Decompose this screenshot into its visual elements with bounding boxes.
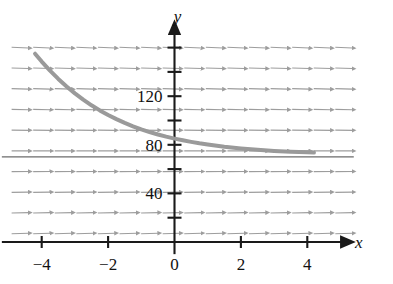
x-tick-label: −4	[33, 255, 52, 274]
axes-group	[2, 33, 342, 254]
slope-field-arrow	[314, 47, 331, 48]
slope-field-arrow	[335, 47, 352, 48]
slope-field-arrow	[292, 68, 309, 69]
slope-field-arrow	[98, 68, 115, 69]
slope-field-arrow	[163, 233, 180, 234]
x-tick-label: 4	[303, 255, 312, 274]
slope-field-arrow	[12, 68, 29, 69]
slope-field-arrow	[249, 233, 266, 234]
y-tick-label: 80	[146, 136, 163, 155]
slope-field-arrow	[206, 233, 223, 234]
slope-field-arrow	[227, 233, 244, 234]
y-tick-label: 40	[146, 184, 163, 203]
slope-field-arrow	[271, 47, 288, 48]
slope-field-arrow	[271, 233, 288, 234]
slope-field-arrow	[335, 233, 352, 234]
slope-field-arrow	[314, 68, 331, 69]
x-tick-label: −2	[99, 255, 117, 274]
slope-field-arrow	[206, 47, 223, 48]
slope-field-arrow	[76, 233, 93, 234]
slope-field-arrow	[249, 47, 266, 48]
slope-field-arrow	[12, 47, 29, 48]
slope-field-arrow	[98, 47, 115, 48]
slope-field-arrow	[55, 47, 72, 48]
slope-field-arrow	[12, 233, 29, 234]
slope-field-arrow	[141, 47, 158, 48]
slope-field-arrow	[55, 233, 72, 234]
y-tick-label: 120	[137, 87, 163, 106]
slope-field-arrow	[335, 68, 352, 69]
tick-labels: −4−20244080120	[33, 87, 312, 274]
slope-field-arrow	[33, 233, 50, 234]
slope-field-arrow	[271, 68, 288, 69]
slope-field-arrow	[292, 47, 309, 48]
slope-field-arrow	[141, 233, 158, 234]
x-axis-label: x	[354, 233, 363, 252]
slope-field-arrow	[120, 47, 137, 48]
x-tick-label: 2	[237, 255, 246, 274]
slope-field-arrow	[120, 68, 137, 69]
slope-field-arrow	[141, 68, 158, 69]
slope-field-arrow	[120, 233, 137, 234]
slope-field-arrow	[292, 233, 309, 234]
slope-field-arrow	[98, 233, 115, 234]
slope-field-arrow	[184, 47, 201, 48]
slope-field-arrow	[163, 68, 180, 69]
slope-field-arrow	[76, 68, 93, 69]
slope-field-arrow	[249, 68, 266, 69]
slope-field-arrow	[184, 233, 201, 234]
x-tick-label: 0	[170, 255, 179, 274]
slope-field-arrow	[227, 68, 244, 69]
slope-field-arrow	[33, 47, 50, 48]
slope-field-arrow	[206, 68, 223, 69]
slope-field-arrow	[76, 47, 93, 48]
y-axis-label: y	[172, 7, 182, 26]
slope-field-arrow	[184, 68, 201, 69]
slope-field-figure: −4−20244080120 x y	[0, 0, 393, 284]
plot-canvas: −4−20244080120 x y	[0, 0, 393, 284]
slope-field-arrow	[55, 68, 72, 69]
slope-field-arrow	[227, 47, 244, 48]
slope-field-arrow	[314, 233, 331, 234]
